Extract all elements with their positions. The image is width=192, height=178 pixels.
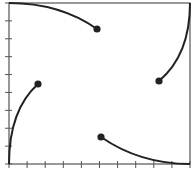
dot-left: [34, 80, 41, 87]
dot-top: [93, 25, 100, 32]
dot-right: [155, 77, 162, 84]
dots: [34, 25, 162, 140]
bottom-arc: [101, 137, 190, 164]
diagram-canvas: [0, 0, 192, 178]
left-arc: [9, 84, 38, 164]
dot-bottom: [97, 133, 104, 140]
pinwheel-arc-diagram: [0, 0, 192, 178]
right-arc: [159, 3, 190, 81]
top-arc: [9, 3, 97, 29]
